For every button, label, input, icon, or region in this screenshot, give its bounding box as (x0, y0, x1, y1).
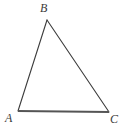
triangle-side-ac (18, 111, 109, 112)
vertex-label-c: C (110, 113, 118, 125)
vertex-label-b: B (40, 2, 47, 14)
triangle-drawing (0, 0, 127, 131)
triangle-figure: A B C (0, 0, 127, 131)
vertex-label-a: A (5, 112, 12, 124)
